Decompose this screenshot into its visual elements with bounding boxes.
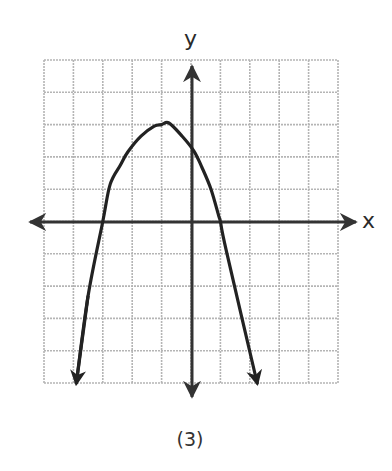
y-axis-label: y <box>184 28 197 50</box>
curve-arrow-left <box>76 296 88 383</box>
graph-canvas <box>0 0 392 471</box>
x-axis-label: x <box>362 210 375 232</box>
figure-caption: (3) <box>0 428 380 450</box>
axes <box>30 66 356 397</box>
